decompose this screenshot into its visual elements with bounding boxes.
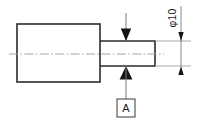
dimension-arrow-down-icon: [178, 66, 183, 75]
dimension-label-group: φ10: [166, 8, 178, 27]
drawing-svg: φ10 A: [0, 0, 200, 127]
large-body-outline: [17, 24, 100, 82]
top-datum-triangle-icon: [121, 29, 131, 42]
dimension-label: φ10: [166, 8, 178, 27]
shaft-outline: [100, 41, 155, 66]
technical-drawing-canvas: φ10 A: [0, 0, 200, 127]
datum-label: A: [122, 102, 130, 114]
dimension-arrow-up-icon: [178, 32, 183, 41]
